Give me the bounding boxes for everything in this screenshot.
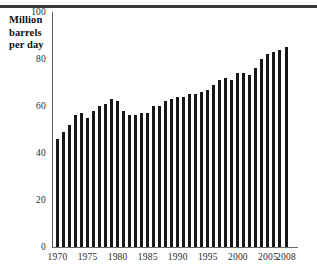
bar [98, 106, 101, 247]
bar [146, 113, 149, 247]
x-tick-label: 1975 [78, 252, 98, 262]
bar [278, 50, 281, 247]
bar [140, 113, 143, 247]
bar [224, 78, 227, 247]
bar [230, 80, 233, 247]
bar [110, 99, 113, 247]
bar [158, 106, 161, 247]
y-axis-tick-labels: 020406080100 [0, 12, 46, 248]
x-tick-label: 2005 [258, 252, 278, 262]
bar [116, 101, 119, 247]
bar [182, 97, 185, 247]
x-axis-tick-labels: 197019751980198519901995200020052008 [52, 252, 302, 266]
x-tick-label: 2000 [228, 252, 248, 262]
x-tick-label: 1980 [108, 252, 128, 262]
bar [285, 47, 288, 247]
y-tick-label: 0 [6, 242, 46, 252]
x-tick-label: 2008 [276, 252, 296, 262]
bar [176, 97, 179, 247]
y-tick-label: 100 [6, 7, 46, 17]
bar [86, 118, 89, 247]
x-tick-label: 1985 [138, 252, 158, 262]
y-tick-label: 60 [6, 101, 46, 111]
x-axis-line [52, 247, 298, 248]
y-tick-label: 40 [6, 148, 46, 158]
bar [80, 113, 83, 247]
bar-series [52, 12, 298, 247]
bar [134, 115, 137, 247]
y-tick-label: 80 [6, 54, 46, 64]
bar [56, 139, 59, 247]
bar [194, 94, 197, 247]
bar [164, 101, 167, 247]
bar [104, 104, 107, 247]
bar [200, 92, 203, 247]
chart-figure: Million barrels per day 020406080100 197… [0, 0, 317, 274]
bar [68, 125, 71, 247]
x-tick-label: 1970 [48, 252, 68, 262]
bar [152, 106, 155, 247]
x-tick-label: 1995 [198, 252, 218, 262]
bar [62, 132, 65, 247]
bar [206, 90, 209, 247]
bar [266, 54, 269, 247]
bar [188, 94, 191, 247]
bar [74, 115, 77, 247]
bar [272, 52, 275, 247]
bar [122, 111, 125, 247]
bar [212, 85, 215, 247]
x-tick-label: 1990 [168, 252, 188, 262]
bar [242, 73, 245, 247]
bar [236, 73, 239, 247]
plot-area [52, 12, 298, 248]
top-horizontal-rule [0, 5, 317, 8]
bar [128, 115, 131, 247]
bar [218, 80, 221, 247]
bar [170, 99, 173, 247]
y-tick-label: 20 [6, 195, 46, 205]
bar [254, 68, 257, 247]
bar [260, 59, 263, 247]
bar [92, 111, 95, 247]
bar [248, 75, 251, 247]
